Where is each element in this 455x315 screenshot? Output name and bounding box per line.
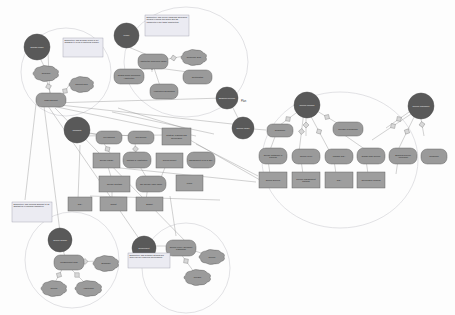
edge-marker-icon <box>171 55 177 61</box>
edge-marker-icon <box>316 129 321 134</box>
edge-marker-icon <box>105 147 110 152</box>
node-shape-rect[interactable] <box>136 197 163 211</box>
node-shape-cloud[interactable] <box>75 280 102 296</box>
note-text: Description: The Physical Element is an … <box>12 202 52 222</box>
plan-label: Plan <box>241 101 246 104</box>
node-shape-rect[interactable] <box>357 172 385 188</box>
node-shape-rect[interactable] <box>100 197 127 211</box>
node-shape-rounded[interactable] <box>166 240 196 256</box>
node-shape-circle[interactable] <box>216 87 238 109</box>
node-shape-circle[interactable] <box>294 92 320 118</box>
edge-marker-icon <box>391 124 396 129</box>
node-shape-rounded[interactable] <box>325 149 353 164</box>
node-shape-rounded[interactable] <box>150 84 178 99</box>
node-shape-rounded[interactable] <box>267 124 293 137</box>
node-shape-rect[interactable] <box>176 175 203 191</box>
node-shape-rounded[interactable] <box>136 176 166 192</box>
edge-marker-icon <box>419 122 425 128</box>
node-shape-rounded[interactable] <box>292 149 320 164</box>
edge-line <box>78 145 80 200</box>
edge-line <box>118 108 190 130</box>
edge-marker-icon <box>184 259 189 264</box>
node-shape-rounded[interactable] <box>183 70 212 84</box>
edge-line <box>25 104 36 200</box>
edge-line <box>154 68 160 86</box>
edge-marker-icon <box>324 114 329 119</box>
edge-line <box>51 98 224 103</box>
node-shape-rounded[interactable] <box>128 131 154 144</box>
node-shape-rect[interactable] <box>292 172 320 188</box>
node-shape-rounded[interactable] <box>357 148 385 164</box>
node-shape-rect[interactable] <box>156 153 183 168</box>
edge-marker-icon <box>63 89 68 94</box>
node-shape-rounded[interactable] <box>114 69 144 84</box>
edge-line <box>48 106 140 240</box>
node-shape-rect[interactable] <box>162 128 191 145</box>
node-shape-rounded[interactable] <box>138 54 168 69</box>
edge-marker-icon <box>56 272 61 277</box>
node-shape-rounded[interactable] <box>389 148 417 164</box>
node-shape-circle[interactable] <box>232 117 254 139</box>
edge-marker-icon <box>286 117 291 122</box>
node-shape-cloud[interactable] <box>69 76 93 92</box>
note-text: Description: The Profile organizes Refer… <box>145 15 189 36</box>
node-shape-circle[interactable] <box>24 34 50 60</box>
node-shape-circle[interactable] <box>48 228 72 252</box>
edge-marker-icon <box>404 129 409 134</box>
diagram-canvas: Domain ModelResourceConcept TypeModel El… <box>0 0 455 315</box>
node-shape-cloud[interactable] <box>33 65 58 81</box>
edge-marker-icon <box>75 273 79 277</box>
edge-marker-icon <box>46 84 52 90</box>
node-shape-rounded[interactable] <box>259 148 287 164</box>
node-shape-circle[interactable] <box>114 23 139 48</box>
node-shape-rect[interactable] <box>259 172 287 188</box>
node-shape-cloud[interactable] <box>93 255 118 271</box>
edge-marker-icon <box>397 117 402 122</box>
node-shape-rounded[interactable] <box>54 255 84 270</box>
node-shape-rounded[interactable] <box>187 152 215 168</box>
node-shape-rounded[interactable] <box>96 131 122 144</box>
node-shape-rounded[interactable] <box>36 93 66 107</box>
edge-line <box>170 196 176 236</box>
node-shape-rounded[interactable] <box>421 149 447 164</box>
edge-marker-icon <box>303 122 309 128</box>
note-text: Description: The Domain Model is not des… <box>63 38 103 57</box>
node-shape-cloud[interactable] <box>41 280 66 296</box>
node-shape-rect[interactable] <box>99 176 130 192</box>
node-shapes <box>24 23 447 297</box>
node-shape-rounded[interactable] <box>333 122 363 136</box>
edge-marker-icon <box>133 146 139 152</box>
node-shape-cloud[interactable] <box>199 250 224 265</box>
node-shape-cloud[interactable] <box>181 49 206 65</box>
note-text: Description: The software artifacts are … <box>128 253 170 268</box>
node-shape-rounded[interactable] <box>123 152 151 168</box>
node-shape-rect[interactable] <box>68 197 92 211</box>
edge-marker-icon <box>299 129 305 135</box>
node-shape-rect[interactable] <box>93 153 120 168</box>
node-shape-circle[interactable] <box>408 93 434 119</box>
node-shape-rect[interactable] <box>325 172 353 188</box>
node-shape-circle[interactable] <box>64 117 90 143</box>
node-shape-cloud[interactable] <box>184 269 211 285</box>
